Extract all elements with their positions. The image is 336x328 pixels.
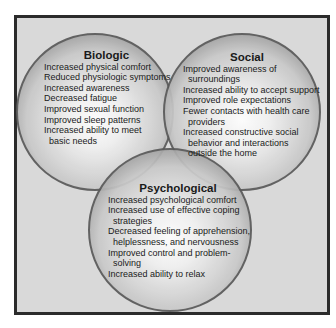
list-item: Reduced physiologic symptoms [44,72,169,83]
list-item: providers [183,117,323,128]
biologic-title: Biologic [44,50,169,61]
list-item: basic needs [44,136,169,147]
social-title: Social [171,52,323,63]
list-item: Increased ability to relax [108,269,248,280]
list-item: Fewer contacts with health care [183,106,323,117]
list-item: outside the home [183,148,323,159]
list-item: Improved awareness of [183,64,323,75]
biologic-text: Biologic Increased physical comfort Redu… [44,50,169,146]
list-item: helplessness, and nervousness [108,237,248,248]
list-item: Decreased feeling of apprehension, [108,226,248,237]
list-item: Increased ability to accept support [183,85,323,96]
list-item: strategies [108,216,248,227]
psychological-title: Psychological [108,183,248,194]
list-item: Improved control and problem- [108,248,248,259]
list-item: Improved role expectations [183,95,323,106]
list-item: Increased psychological comfort [108,195,248,206]
psychological-text: Psychological Increased psychological co… [108,183,248,279]
list-item: Increased ability to meet [44,125,169,136]
list-item: Increased awareness [44,83,169,94]
list-item: Improved sleep patterns [44,115,169,126]
list-item: solving [108,258,248,269]
list-item: Improved sexual function [44,104,169,115]
list-item: Increased physical comfort [44,62,169,73]
list-item: Increased use of effective coping [108,205,248,216]
list-item: Decreased fatigue [44,93,169,104]
list-item: Increased constructive social [183,127,323,138]
list-item: behavior and interactions [183,138,323,149]
list-item: surroundings [183,74,323,85]
social-text: Social Improved awareness of surrounding… [183,52,323,159]
